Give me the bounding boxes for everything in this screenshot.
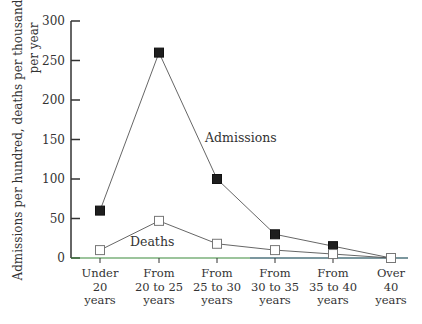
y-tick-label: 250 — [42, 54, 65, 68]
deaths-marker — [96, 246, 105, 255]
admissions-marker — [155, 48, 164, 57]
y-tick-label: 200 — [42, 93, 65, 107]
x-category-label: years — [142, 293, 175, 307]
line-chart: Admissions per hundred, deaths per thous… — [0, 0, 422, 324]
y-tick-label: 100 — [42, 172, 65, 186]
deaths-marker — [329, 250, 338, 259]
x-category-label: Over — [377, 266, 406, 280]
x-category-label: 20 to 25 — [135, 280, 183, 294]
x-axis: Under20yearsFrom20 to 25yearsFrom25 to 3… — [71, 258, 408, 307]
admissions-marker — [96, 206, 105, 215]
x-category-label: years — [83, 293, 116, 307]
x-category-label: 35 to 40 — [309, 280, 357, 294]
y-axis-label: Admissions per hundred, deaths per thous… — [11, 0, 41, 282]
y-axis-label-line1: Admissions per hundred, deaths per thous… — [11, 0, 25, 282]
x-category-label: From — [259, 266, 290, 280]
y-tick-label: 150 — [42, 133, 65, 147]
x-category-label: Under — [82, 266, 119, 280]
deaths-marker — [387, 254, 396, 263]
x-category-label: 30 to 35 — [251, 280, 299, 294]
admissions-label: Admissions — [204, 130, 277, 145]
y-tick-label: 50 — [50, 212, 65, 226]
admissions-line — [100, 53, 391, 258]
x-category-label: years — [374, 293, 407, 307]
x-category-label: From — [317, 266, 348, 280]
deaths-marker — [155, 216, 164, 225]
x-category-label: From — [143, 266, 174, 280]
series-group — [96, 48, 396, 262]
admissions-marker — [271, 230, 280, 239]
deaths-marker — [213, 239, 222, 248]
x-category-label: years — [258, 293, 291, 307]
x-category-label: 20 — [93, 280, 108, 294]
deaths-marker — [271, 246, 280, 255]
y-axis: 050100150200250300 — [42, 14, 80, 265]
x-category-label: From — [201, 266, 232, 280]
admissions-marker — [213, 175, 222, 184]
x-category-label: years — [200, 293, 233, 307]
y-tick-label: 300 — [42, 14, 65, 28]
deaths-label: Deaths — [130, 234, 174, 249]
x-category-label: years — [316, 293, 349, 307]
x-category-label: 25 to 30 — [193, 280, 241, 294]
x-category-label: 40 — [384, 280, 399, 294]
y-axis-label-line2: per year — [27, 22, 41, 73]
y-tick-label: 0 — [57, 251, 65, 265]
